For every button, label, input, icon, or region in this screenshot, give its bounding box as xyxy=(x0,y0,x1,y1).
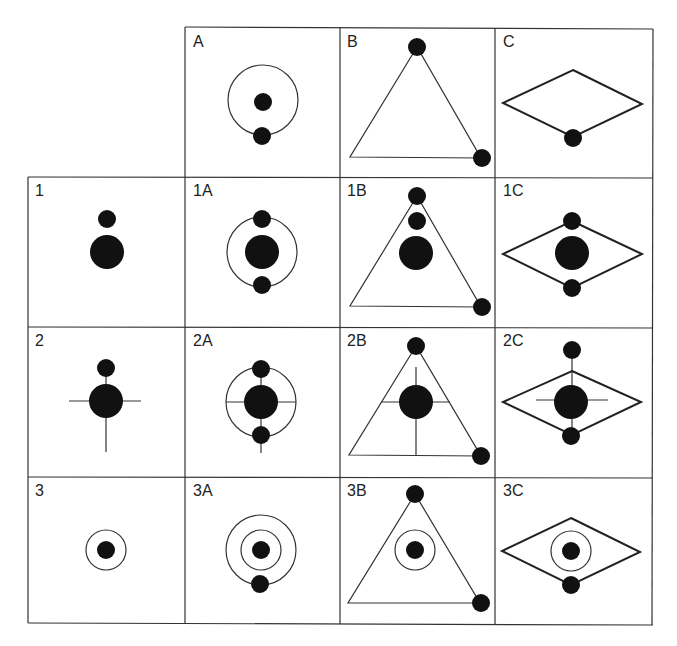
dot-icon xyxy=(563,279,581,297)
dot-icon xyxy=(252,360,270,378)
symbol-A xyxy=(228,65,298,145)
label-2A: 2A xyxy=(193,332,213,349)
dot-icon xyxy=(254,93,272,111)
dot-icon xyxy=(472,447,490,465)
label-2B: 2B xyxy=(347,332,367,349)
large-dot-icon xyxy=(554,385,588,419)
symbol-1B xyxy=(350,187,491,316)
label-1A: 1A xyxy=(193,182,213,199)
label-3B: 3B xyxy=(347,482,367,499)
dot-icon xyxy=(564,129,582,147)
large-dot-icon xyxy=(89,384,123,418)
label-3C: 3C xyxy=(503,482,523,499)
dot-icon xyxy=(563,341,581,359)
large-dot-icon xyxy=(244,385,278,419)
label-1B: 1B xyxy=(347,182,367,199)
dot-icon xyxy=(408,187,426,205)
dot-icon xyxy=(252,426,270,444)
dot-icon xyxy=(473,149,491,167)
symbol-C xyxy=(503,70,642,147)
dot-icon xyxy=(562,542,580,560)
label-B: B xyxy=(347,33,358,50)
large-dot-icon xyxy=(90,235,124,269)
symbol-1A xyxy=(227,210,297,294)
dot-icon xyxy=(563,212,581,230)
symbol-3 xyxy=(86,530,126,570)
dot-icon xyxy=(408,38,426,56)
label-1: 1 xyxy=(35,182,44,199)
label-2: 2 xyxy=(35,332,44,349)
symbol-2A xyxy=(226,360,296,453)
dot-icon xyxy=(253,210,271,228)
symbol-matrix-diagram: A B C 1 1A 1B 1C 2 2A 2B 2C 3 3A 3B 3C xyxy=(0,0,677,646)
symbol-2 xyxy=(69,359,141,452)
dot-icon xyxy=(472,594,490,612)
large-dot-icon xyxy=(245,235,279,269)
symbol-3C xyxy=(502,518,640,594)
dot-icon xyxy=(406,485,424,503)
label-1C: 1C xyxy=(503,182,523,199)
label-C: C xyxy=(503,33,515,50)
label-3A: 3A xyxy=(193,482,213,499)
symbol-1 xyxy=(90,210,124,269)
dot-icon xyxy=(97,359,115,377)
label-2C: 2C xyxy=(503,332,523,349)
dot-icon xyxy=(252,541,270,559)
dot-icon xyxy=(473,298,491,316)
dot-icon xyxy=(406,541,424,559)
triangle-icon xyxy=(350,47,481,158)
large-dot-icon xyxy=(399,385,433,419)
label-3: 3 xyxy=(35,482,44,499)
dot-icon xyxy=(408,212,426,230)
symbol-3B xyxy=(348,485,490,612)
large-dot-icon xyxy=(555,236,589,270)
symbol-1C xyxy=(503,212,642,297)
dot-icon xyxy=(251,575,269,593)
dot-icon xyxy=(253,127,271,145)
large-dot-icon xyxy=(399,236,433,270)
label-A: A xyxy=(193,33,204,50)
dot-icon xyxy=(253,276,271,294)
dot-icon xyxy=(98,210,116,228)
symbol-B xyxy=(350,38,491,167)
dot-icon xyxy=(97,541,115,559)
diamond-icon xyxy=(503,70,642,137)
dot-icon xyxy=(562,427,580,445)
dot-icon xyxy=(562,576,580,594)
symbol-3A xyxy=(226,515,296,593)
symbol-2C xyxy=(503,341,641,445)
symbol-2B xyxy=(349,337,490,465)
dot-icon xyxy=(407,337,425,355)
